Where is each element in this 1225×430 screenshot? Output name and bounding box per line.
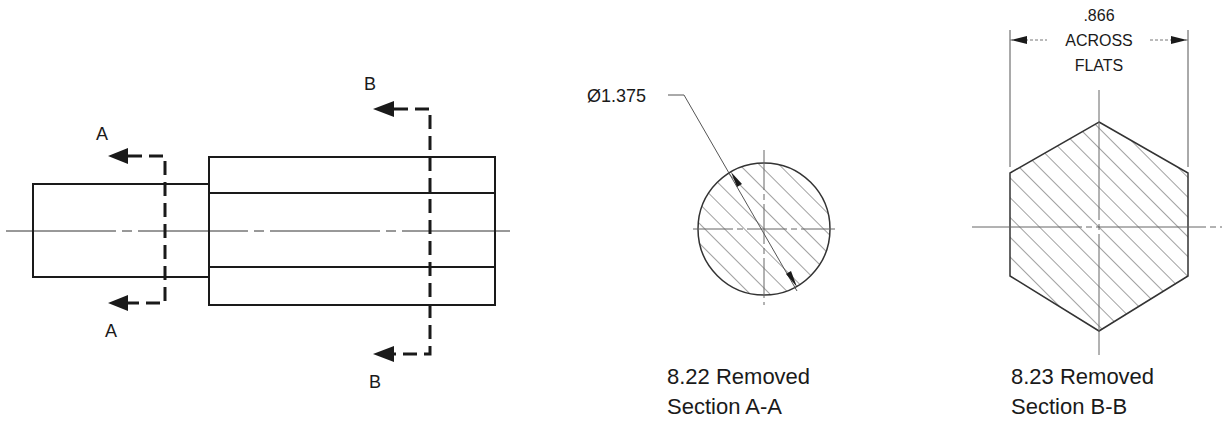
caption-line-2: Section A-A xyxy=(667,394,782,419)
dimension-text-across: ACROSS xyxy=(1065,32,1133,49)
section-b-b: .866 ACROSS FLATS 8.23 Removed Section B… xyxy=(972,7,1222,419)
cut-a-label-bottom: A xyxy=(105,321,117,341)
cut-b-label-bottom: B xyxy=(369,372,381,392)
cutting-plane-b: B B xyxy=(364,74,430,392)
caption-line-2: Section B-B xyxy=(1011,394,1127,419)
arrow-left-icon xyxy=(373,346,394,362)
arrow-left-icon xyxy=(373,101,394,117)
diameter-dimension: Ø1.375 xyxy=(587,86,646,106)
cut-a-label-top: A xyxy=(96,124,108,144)
cutting-plane-a: A A xyxy=(96,124,165,341)
arrow-right-icon xyxy=(1171,36,1187,44)
dimension-value: .866 xyxy=(1083,7,1114,24)
arrow-left-icon xyxy=(108,295,128,311)
caption-line-1: 8.22 Removed xyxy=(667,364,810,389)
dimension-text-flats: FLATS xyxy=(1075,57,1124,74)
cut-b-label-top: B xyxy=(364,74,376,94)
drawing-canvas: A A B B Ø1.375 8.22 Removed Section A-A xyxy=(0,0,1225,430)
section-a-a: Ø1.375 8.22 Removed Section A-A xyxy=(587,86,840,419)
arrow-left-icon xyxy=(108,148,128,164)
main-view: A A B B xyxy=(6,74,510,392)
arrow-left-icon xyxy=(1011,36,1027,44)
caption-line-1: 8.23 Removed xyxy=(1011,364,1154,389)
